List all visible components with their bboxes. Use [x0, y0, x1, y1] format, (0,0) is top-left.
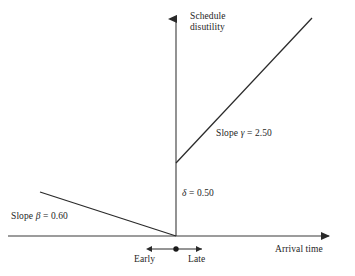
slope-beta-prefix: Slope — [11, 211, 36, 221]
schedule-disutility-chart: Schedule disutility Arrival time Slope γ… — [0, 0, 355, 276]
delta-annotation: δ = 0.50 — [182, 188, 214, 199]
delta-value: = 0.50 — [187, 188, 214, 198]
chart-canvas — [0, 0, 355, 276]
preferred-arrival-time-dot — [173, 246, 178, 251]
early-region-label: Early — [134, 254, 155, 265]
slope-beta-value: = 0.60 — [40, 211, 67, 221]
late-region-label: Late — [188, 254, 205, 265]
slope-gamma-value: = 2.50 — [244, 128, 271, 138]
late-branch-line — [176, 18, 312, 163]
x-axis-label: Arrival time — [275, 244, 323, 255]
slope-gamma-annotation: Slope γ = 2.50 — [216, 128, 272, 139]
y-axis-label-line2: disutility — [190, 22, 260, 33]
slope-beta-annotation: Slope β = 0.60 — [11, 211, 68, 222]
y-axis-label-line1: Schedule — [190, 11, 260, 22]
y-axis-label: Schedule disutility — [190, 11, 260, 33]
slope-gamma-prefix: Slope — [216, 128, 241, 138]
